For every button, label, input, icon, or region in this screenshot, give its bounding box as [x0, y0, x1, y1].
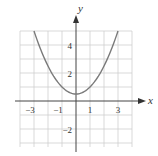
x-axis-label: x — [147, 94, 153, 106]
y-axis-label: y — [77, 2, 83, 14]
parabola-graph: x y −3 −1 1 3 4 2 −2 — [0, 0, 158, 156]
y-axis — [73, 15, 79, 152]
y-axis-arrow-icon — [73, 15, 79, 23]
tick-x-1: 1 — [88, 105, 93, 115]
tick-y-4: 4 — [68, 41, 73, 51]
x-axis-arrow-icon — [138, 98, 146, 104]
tick-x-3: 3 — [116, 105, 121, 115]
x-axis — [15, 98, 146, 104]
tick-y-neg2: −2 — [62, 125, 72, 135]
tick-x-neg1: −1 — [53, 105, 63, 115]
tick-x-neg3: −3 — [25, 105, 35, 115]
tick-y-2: 2 — [68, 69, 73, 79]
